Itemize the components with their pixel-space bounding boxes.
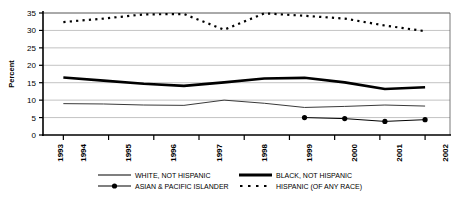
- y-tick-label: 20: [27, 61, 36, 70]
- x-tick-label: 2002: [441, 143, 450, 161]
- series-marker-2: [422, 117, 427, 122]
- x-tick-label: 2000: [350, 143, 359, 161]
- x-tick-label: 1995: [124, 143, 133, 161]
- legend-item-white-not-hispanic: WHITE, NOT HISPANIC: [97, 170, 211, 180]
- y-tick-label: 35: [27, 9, 36, 18]
- y-tick-label: 15: [27, 79, 36, 88]
- legend-label: WHITE, NOT HISPANIC: [135, 172, 211, 179]
- legend-label: BLACK, NOT HISPANIC: [276, 172, 352, 179]
- y-tick-label: 10: [27, 96, 36, 105]
- x-tick-label: 1998: [260, 143, 269, 161]
- x-tick-label: 1996: [169, 143, 178, 161]
- x-tick-label: 1997: [215, 143, 224, 161]
- series-marker-2: [382, 119, 387, 124]
- y-axis-title: Percent: [7, 60, 16, 88]
- x-tick-label: 1999: [305, 143, 314, 161]
- y-tick-label: 30: [27, 26, 36, 35]
- chart-container: 35 30 25 20 15 10 5 0 Percent 1993 1994: [0, 0, 473, 202]
- series-marker-2: [342, 116, 347, 121]
- legend-item-black-not-hispanic: BLACK, NOT HISPANIC: [238, 170, 352, 180]
- legend-swatch-solid-thick-line: [238, 170, 274, 180]
- x-tick-label: 1994: [79, 143, 88, 161]
- legend-item-hispanic-of-any-race: HISPANIC (OF ANY RACE): [238, 181, 362, 191]
- series-marker-2: [302, 115, 307, 120]
- legend-swatch-solid-thin-line: [97, 170, 133, 180]
- y-axis-tick-labels: 35 30 25 20 15 10 5 0: [27, 9, 36, 140]
- legend-swatch-dashed-line: [238, 181, 274, 191]
- legend-label: ASIAN & PACIFIC ISLANDER: [135, 183, 229, 190]
- plot-area-background: [43, 13, 450, 135]
- legend-label: HISPANIC (OF ANY RACE): [276, 183, 362, 190]
- y-tick-label: 25: [27, 44, 36, 53]
- x-axis-tick-labels: 1993 1994 1995 1996 1997 1998 1999 2000 …: [56, 143, 449, 161]
- x-tick-label: 2001: [395, 143, 404, 161]
- legend-swatch-line-with-dot-marker: [97, 181, 133, 191]
- x-tick-label: 1993: [56, 143, 65, 161]
- y-tick-label: 5: [32, 114, 37, 123]
- chart-legend: WHITE, NOT HISPANIC BLACK, NOT HISPANIC …: [0, 168, 473, 202]
- legend-item-asian-pacific-islander: ASIAN & PACIFIC ISLANDER: [97, 181, 229, 191]
- y-tick-label: 0: [32, 131, 37, 140]
